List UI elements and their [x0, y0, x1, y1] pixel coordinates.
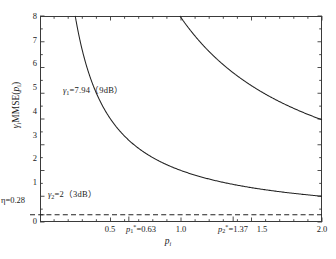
p2-star-value: =1.37 [228, 224, 248, 234]
y-tick-0: 0 [33, 217, 37, 226]
x-tick-2-0: 2.0 [312, 225, 332, 234]
gamma2-annotation: γ2=2（3dB） [48, 190, 97, 199]
eta-value: =0.28 [5, 195, 25, 205]
y-tick-8: 8 [33, 12, 37, 21]
x-tick-1-5: 1.5 [252, 225, 272, 234]
gamma1-value: =7.94（9dB） [69, 85, 123, 95]
x-axis-title-p: p [165, 236, 170, 246]
gamma2-subscript: 2 [51, 193, 54, 200]
y-tick-6: 6 [33, 59, 37, 68]
y-axis-title: γiMMSE(pi) [11, 45, 21, 165]
y-tick-2: 2 [33, 154, 37, 163]
y-tick-7: 7 [33, 36, 37, 45]
y-tick-5: 5 [33, 83, 37, 92]
y-tick-4: 4 [33, 107, 37, 116]
y-tick-3: 3 [33, 131, 37, 140]
p1-star-superscript: * [133, 223, 136, 230]
y-axis-p: p [11, 87, 21, 92]
x-tick-1-0: 1.0 [171, 225, 191, 234]
y-axis-gamma: γ [11, 124, 21, 128]
eta-axis-annotation: η=0.28 [1, 196, 25, 205]
x-axis-title-sub: i [170, 240, 172, 247]
y-axis-mmse: MMSE( [11, 92, 21, 123]
y-axis-p-sub: i [15, 85, 22, 87]
figure-mmse-power-plot: 8 7 6 5 4 3 2 1 0 η=0.28 0.5 p1*=0.63 1.… [0, 0, 336, 259]
y-tick-1: 1 [33, 178, 37, 187]
gamma1-annotation: γ1=7.94（9dB） [63, 86, 123, 95]
x-axis-title: pi [0, 236, 336, 246]
gamma1-subscript: 1 [66, 89, 69, 96]
gamma2-value: =2（3dB） [54, 189, 97, 199]
p1-star-value: =0.63 [136, 224, 156, 234]
p2-star-superscript: * [225, 223, 228, 230]
x-tick-p1-star: p1*=0.63 [113, 225, 169, 234]
